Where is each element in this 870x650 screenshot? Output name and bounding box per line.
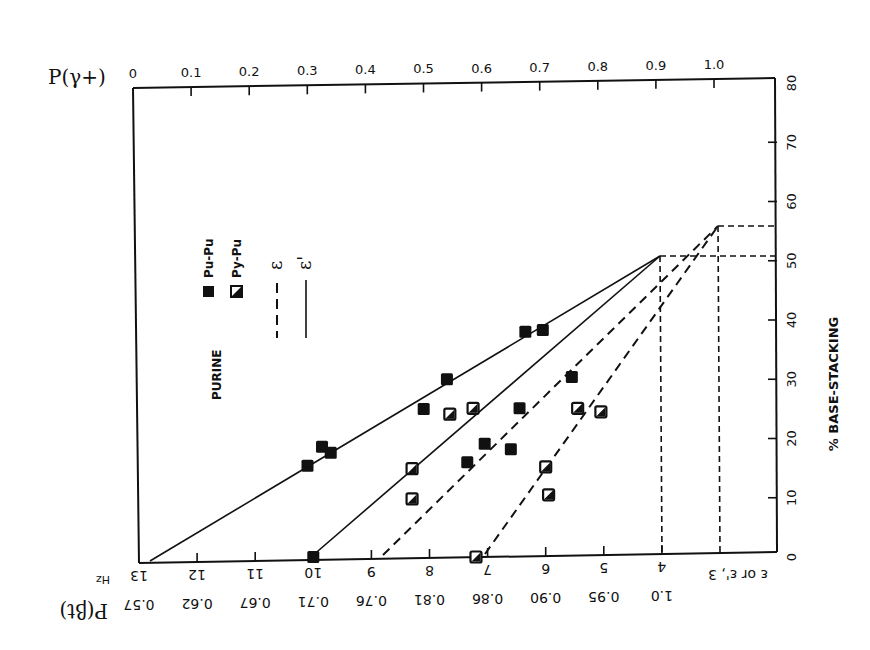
bottom-tick-label: 11 xyxy=(246,566,264,582)
pupu-point xyxy=(441,373,453,385)
right-tick-label: 40 xyxy=(784,312,799,329)
pupu-point xyxy=(505,443,517,455)
secondary-tick-label: 0.86 xyxy=(472,591,503,607)
top-tick-label: 0 xyxy=(129,66,137,81)
corner-label: ε or ε', 3 xyxy=(708,567,768,583)
top-tick-label: 1.0 xyxy=(704,57,725,72)
right-tick-label: 70 xyxy=(784,134,799,151)
bottom-tick-label: 5 xyxy=(599,560,608,576)
eps-prime-pypu-line xyxy=(311,256,660,557)
reference-lines xyxy=(660,226,776,555)
secondary-tick-label: 0.71 xyxy=(298,594,329,610)
pypu-point xyxy=(540,461,551,472)
legend-pypu-label: Py-Pu xyxy=(230,239,244,278)
legend-eps-prime-label: ε' xyxy=(294,256,315,270)
pupu-point xyxy=(519,326,531,338)
secondary-tick-label: 0.62 xyxy=(182,596,213,612)
legend: Pu-Pu Py-Pu ε ε' PURINE xyxy=(202,238,315,400)
pupu-point xyxy=(418,403,430,415)
secondary-tick-label: 0.67 xyxy=(240,595,271,611)
secondary-tick-label: 0.81 xyxy=(414,592,445,608)
legend-eps-label: ε xyxy=(265,261,286,270)
bottom-tick-label: 12 xyxy=(188,567,206,583)
top-tick-label: 0.7 xyxy=(529,60,550,75)
pupu-point xyxy=(325,447,337,459)
pupu-point xyxy=(461,456,473,468)
secondary-tick-label: 0.95 xyxy=(588,589,619,605)
pypu-point xyxy=(470,552,481,563)
pypu-point xyxy=(407,463,418,474)
top-tick-label: 0.1 xyxy=(181,65,202,80)
pupu-point xyxy=(479,438,491,450)
left-axis xyxy=(133,88,139,563)
pupu-point xyxy=(301,460,313,472)
pupu-point xyxy=(307,551,319,563)
right-axis xyxy=(775,78,777,552)
top-tick-label: 0.2 xyxy=(239,64,260,79)
right-tick-label: 50 xyxy=(784,252,799,269)
base-stacking-chart: 00.10.20.30.40.50.60.70.80.91.0 01020304… xyxy=(0,0,870,650)
pupu-point xyxy=(566,371,578,383)
bottom-tick-label: 13 xyxy=(130,568,148,584)
right-tick-label: 0 xyxy=(784,553,799,561)
purine-annotation: PURINE xyxy=(210,350,224,400)
bottom-tick-label: 10 xyxy=(304,565,322,581)
bottom-tick-label: 8 xyxy=(425,563,434,579)
axes xyxy=(133,78,777,563)
hz-unit-label: Hz xyxy=(96,573,110,586)
secondary-tick-label: 0.57 xyxy=(123,597,154,613)
right-tick-label: 60 xyxy=(784,193,799,210)
pypu-point xyxy=(444,409,455,420)
half-filled-square-icon xyxy=(231,286,242,297)
top-tick-label: 0.8 xyxy=(587,59,608,74)
bottom-tick-label: 9 xyxy=(367,564,376,580)
pypu-point xyxy=(572,403,583,414)
top-tick-label: 0.6 xyxy=(471,61,492,76)
right-tick-label: 10 xyxy=(784,489,799,506)
bottom-tick-label: 7 xyxy=(483,562,492,578)
eps-pupu-line xyxy=(383,226,718,555)
top-tick-label: 0.9 xyxy=(646,58,667,73)
top-axis xyxy=(133,78,775,88)
filled-square-icon xyxy=(203,286,214,297)
bottom-axis-title: P(βt) xyxy=(59,599,108,623)
pupu-point xyxy=(514,402,526,414)
pypu-point xyxy=(543,489,554,500)
pypu-point xyxy=(595,406,606,417)
pypu-point xyxy=(468,403,479,414)
right-axis-title: % BASE-STACKING xyxy=(826,317,841,451)
top-axis-title: P(γ+) xyxy=(48,65,106,89)
right-tick-label: 20 xyxy=(784,430,799,447)
pypu-point xyxy=(407,493,418,504)
top-tick-label: 0.5 xyxy=(413,61,434,76)
pupu-point xyxy=(537,324,549,336)
secondary-tick-label: 1.0 xyxy=(651,588,673,604)
bottom-tick-label: 6 xyxy=(541,561,550,577)
secondary-tick-label: 0.90 xyxy=(530,590,561,606)
right-tick-label: 80 xyxy=(784,75,799,92)
top-tick-label: 0.3 xyxy=(297,63,318,78)
top-tick-label: 0.4 xyxy=(355,62,376,77)
bottom-tick-label: 4 xyxy=(657,559,666,575)
eps-pypu-line xyxy=(485,226,718,554)
right-axis-ticks: 01020304050607080 xyxy=(768,75,799,561)
bottom-axis xyxy=(139,552,777,563)
right-tick-label: 30 xyxy=(784,371,799,388)
secondary-tick-label: 0.76 xyxy=(356,593,387,609)
top-axis-ticks: 00.10.20.30.40.50.60.70.80.91.0 xyxy=(129,57,724,96)
legend-pupu-label: Pu-Pu xyxy=(202,238,216,278)
